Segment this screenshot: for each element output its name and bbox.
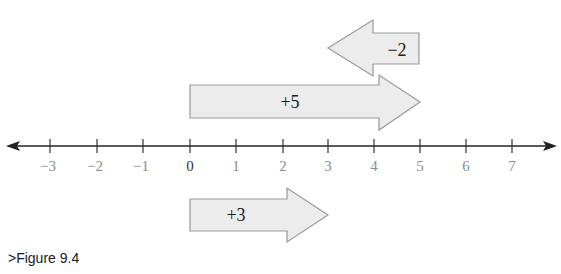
tick-neg3: −3	[40, 139, 56, 174]
tick-7: 7	[508, 139, 516, 174]
tick-label: 3	[324, 158, 332, 174]
tick-label: 2	[279, 158, 287, 174]
arrow-plus-3: +3	[190, 188, 328, 242]
arrow-minus-2-label: −2	[387, 40, 406, 60]
tick-6: 6	[462, 139, 470, 174]
number-line-figure: −2 +5 −3 −2 −1 0 1 2	[0, 0, 561, 274]
tick-label: 1	[232, 158, 240, 174]
number-line: −3 −2 −1 0 1 2 3 4	[6, 139, 557, 174]
tick-1: 1	[232, 139, 240, 174]
tick-label: −3	[40, 158, 56, 174]
tick-label: −1	[133, 158, 149, 174]
arrow-plus-5-label: +5	[280, 92, 299, 112]
tick-3: 3	[324, 139, 332, 174]
arrow-minus-2: −2	[328, 20, 419, 76]
arrow-plus-5: +5	[190, 75, 420, 130]
tick-label: 0	[186, 158, 194, 174]
tick-neg2: −2	[87, 139, 103, 174]
tick-0: 0	[186, 139, 194, 174]
tick-neg1: −1	[133, 139, 149, 174]
figure-caption: >Figure 9.4	[8, 250, 79, 266]
tick-2: 2	[279, 139, 287, 174]
tick-label: 7	[508, 158, 516, 174]
tick-label: 4	[370, 158, 378, 174]
tick-label: −2	[87, 158, 103, 174]
arrow-plus-3-label: +3	[226, 205, 245, 225]
tick-label: 5	[416, 158, 424, 174]
tick-4: 4	[370, 139, 378, 174]
tick-5: 5	[416, 139, 424, 174]
tick-label: 6	[462, 158, 470, 174]
